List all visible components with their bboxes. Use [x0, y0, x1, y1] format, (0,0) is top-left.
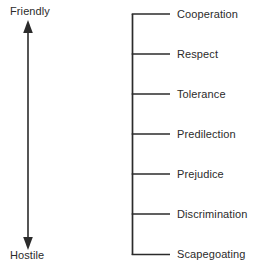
level-label-scapegoating: Scapegoating — [177, 248, 245, 260]
attitude-scale-diagram: Friendly Hostile Cooperation Respect Tol… — [0, 0, 258, 271]
axis-top-label: Friendly — [10, 5, 50, 17]
level-label-prejudice: Prejudice — [177, 168, 224, 180]
level-label-cooperation: Cooperation — [177, 8, 238, 20]
scale-bracket — [126, 6, 182, 266]
level-label-predilection: Predilection — [177, 128, 236, 140]
level-label-discrimination: Discrimination — [177, 208, 247, 220]
axis-bottom-label: Hostile — [10, 249, 44, 261]
level-label-tolerance: Tolerance — [177, 88, 226, 100]
bidirectional-arrow-icon — [12, 20, 44, 250]
level-label-respect: Respect — [177, 48, 218, 60]
